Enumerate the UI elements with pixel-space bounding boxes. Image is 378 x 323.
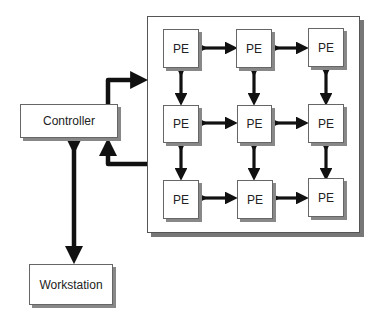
pe-r0-c0: PE [163,29,199,68]
pe-label: PE [318,117,334,131]
controller-box: Controller [20,104,118,138]
diagram-canvas: Controller Workstation PE PE PE PE PE PE… [0,0,378,323]
pe-label: PE [246,117,262,131]
pe-r1-c2: PE [308,104,344,143]
array-to-controller-arrow [108,146,147,164]
pe-r2-c1: PE [237,180,273,219]
pe-r0-c1: PE [236,29,272,68]
pe-r1-c0: PE [163,105,199,143]
pe-label: PE [318,41,334,55]
pe-label: PE [173,42,189,56]
pe-r2-c0: PE [163,180,199,219]
pe-r1-c1: PE [237,105,272,143]
pe-label: PE [318,191,334,205]
pe-r2-c2: PE [308,178,344,217]
pe-r0-c2: PE [308,28,344,67]
controller-label: Controller [43,114,95,128]
pe-label: PE [173,117,189,131]
workstation-box: Workstation [29,264,113,305]
pe-label: PE [247,193,263,207]
controller-to-array-arrow [108,80,140,104]
pe-label: PE [173,193,189,207]
workstation-label: Workstation [39,278,102,292]
pe-label: PE [246,42,262,56]
